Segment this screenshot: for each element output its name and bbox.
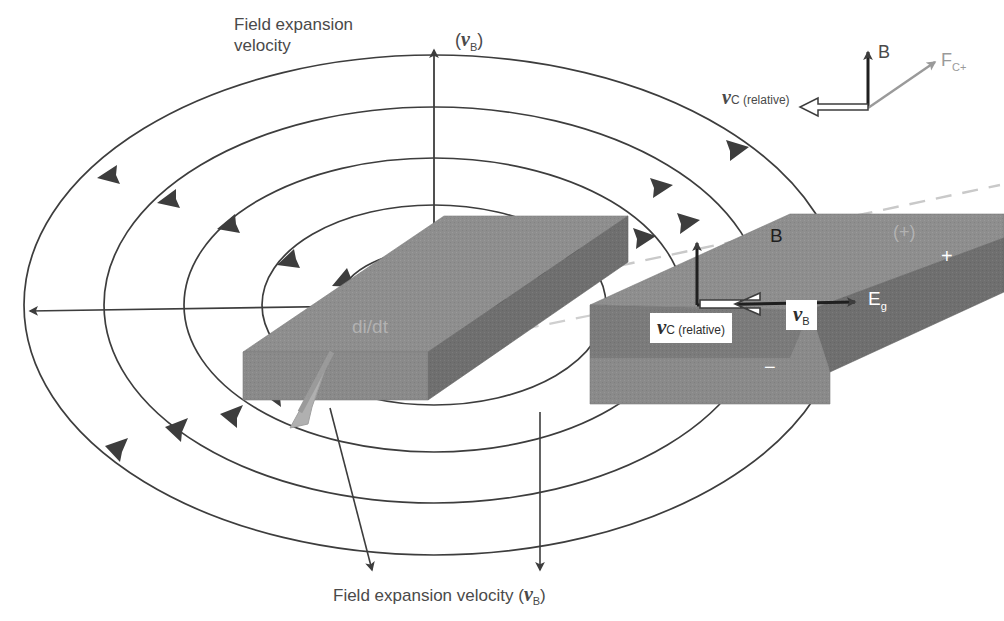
left-conductor-bar	[243, 216, 628, 400]
top-caption: Field expansion velocity	[234, 14, 353, 56]
bottom-caption: Field expansion velocity (νB)	[333, 584, 546, 612]
paren-close: )	[477, 30, 483, 50]
left-bar-front-face	[243, 352, 428, 400]
legend-b-label: B	[878, 42, 890, 63]
legend-force-label: FC+	[941, 50, 966, 73]
diagram-canvas: Field expansion velocity (νB) B FC+ νC (…	[0, 0, 1004, 621]
bottom-caption-pointers	[330, 408, 540, 570]
plus-charge-label: +	[941, 245, 953, 268]
di-dt-label: di/dt	[352, 316, 388, 338]
right-bar-b-label: B	[770, 225, 783, 247]
eg-label: Eg	[868, 288, 887, 312]
field-diagram-svg	[0, 0, 1004, 621]
plus-parens-label: (+)	[893, 222, 916, 243]
legend-nu-c-label: νC (relative)	[722, 86, 790, 109]
nu-b-label-box: νB	[786, 300, 817, 330]
top-caption-line2: velocity	[234, 36, 291, 55]
top-caption-line1: Field expansion	[234, 15, 353, 34]
minus-charge-label: −	[764, 356, 776, 379]
field-line-arrowheads-upper-left	[97, 165, 355, 287]
legend-vectors	[800, 52, 935, 116]
nu-c-label-box: νC (relative)	[650, 313, 732, 343]
nu-symbol: ν	[461, 28, 470, 50]
top-axis-label: (νB)	[455, 28, 483, 53]
